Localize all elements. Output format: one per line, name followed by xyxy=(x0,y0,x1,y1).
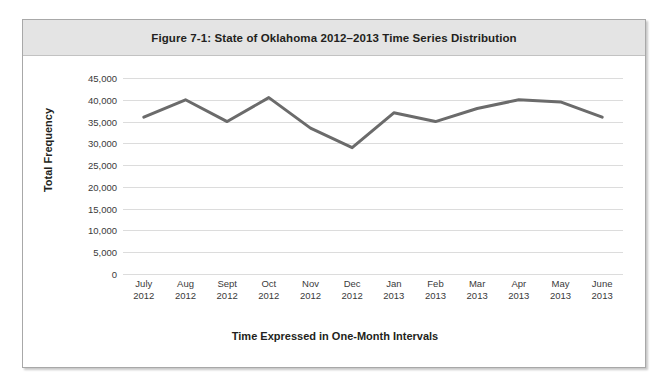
y-axis-tick-label: 20,000 xyxy=(88,181,117,192)
x-tick-year: 2013 xyxy=(508,290,529,302)
x-axis-tick-label: Aug2012 xyxy=(175,278,196,302)
x-axis-title: Time Expressed in One-Month Intervals xyxy=(23,330,647,342)
x-tick-month: July xyxy=(133,278,154,290)
y-axis-tick-label: 30,000 xyxy=(88,138,117,149)
y-axis-title: Total Frequency xyxy=(42,80,54,220)
y-axis-tick-label: 5,000 xyxy=(93,247,117,258)
x-axis-tick-label: Nov2012 xyxy=(300,278,321,302)
x-tick-month: Sept xyxy=(217,278,238,290)
x-tick-year: 2012 xyxy=(175,290,196,302)
x-axis-tick-label: Sept2012 xyxy=(217,278,238,302)
x-tick-year: 2012 xyxy=(133,290,154,302)
x-tick-year: 2013 xyxy=(550,290,571,302)
x-axis-tick-label: May2013 xyxy=(550,278,571,302)
x-tick-month: Nov xyxy=(300,278,321,290)
gridline xyxy=(123,274,623,275)
x-tick-month: Apr xyxy=(508,278,529,290)
figure-panel: Figure 7-1: State of Oklahoma 2012–2013 … xyxy=(22,19,646,368)
x-tick-year: 2013 xyxy=(467,290,488,302)
y-axis-tick-label: 25,000 xyxy=(88,160,117,171)
y-axis-tick-label: 40,000 xyxy=(88,94,117,105)
x-tick-month: May xyxy=(550,278,571,290)
x-tick-year: 2012 xyxy=(342,290,363,302)
x-tick-month: Dec xyxy=(342,278,363,290)
x-axis-tick-label: June2013 xyxy=(592,278,613,302)
x-tick-month: Oct xyxy=(258,278,279,290)
y-axis-tick-label: 0 xyxy=(112,269,117,280)
y-axis-tick-label: 10,000 xyxy=(88,225,117,236)
y-axis-tick-label: 45,000 xyxy=(88,73,117,84)
x-tick-month: June xyxy=(592,278,613,290)
x-tick-year: 2013 xyxy=(425,290,446,302)
y-axis-tick-label: 15,000 xyxy=(88,203,117,214)
x-axis-tick-label: Mar2013 xyxy=(467,278,488,302)
x-tick-month: Mar xyxy=(467,278,488,290)
x-tick-year: 2012 xyxy=(217,290,238,302)
x-axis-tick-label: Feb2013 xyxy=(425,278,446,302)
plot-region xyxy=(123,78,623,274)
y-axis-tick-label: 35,000 xyxy=(88,116,117,127)
figure-root: Figure 7-1: State of Oklahoma 2012–2013 … xyxy=(0,0,671,388)
x-tick-month: Jan xyxy=(383,278,404,290)
x-axis-tick-label: Apr2013 xyxy=(508,278,529,302)
x-axis-tick-labels: July2012Aug2012Sept2012Oct2012Nov2012Dec… xyxy=(123,278,623,310)
x-axis-tick-label: Jan2013 xyxy=(383,278,404,302)
series-line-chart xyxy=(123,78,623,274)
x-tick-year: 2012 xyxy=(300,290,321,302)
x-tick-year: 2013 xyxy=(383,290,404,302)
chart-area: Total Frequency 45,00040,00035,00030,000… xyxy=(23,56,647,368)
x-axis-tick-label: Oct2012 xyxy=(258,278,279,302)
x-axis-tick-label: July2012 xyxy=(133,278,154,302)
x-tick-year: 2012 xyxy=(258,290,279,302)
x-tick-year: 2013 xyxy=(592,290,613,302)
figure-title: Figure 7-1: State of Oklahoma 2012–2013 … xyxy=(151,32,516,44)
series-polyline xyxy=(144,98,602,148)
x-tick-month: Aug xyxy=(175,278,196,290)
y-axis-tick-labels: 45,00040,00035,00030,00025,00020,00015,0… xyxy=(61,78,117,274)
x-tick-month: Feb xyxy=(425,278,446,290)
x-axis-tick-label: Dec2012 xyxy=(342,278,363,302)
figure-title-band: Figure 7-1: State of Oklahoma 2012–2013 … xyxy=(23,20,645,56)
